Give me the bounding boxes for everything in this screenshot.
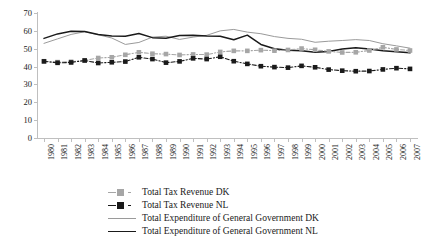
legend-item[interactable]: Total Tax Revenue DK: [108, 186, 408, 199]
x-tick-mark: [112, 139, 113, 142]
x-tick-mark: [342, 139, 343, 142]
data-point-marker: [272, 48, 277, 53]
data-point-marker: [313, 47, 318, 52]
x-tick-label: 1982: [75, 144, 83, 160]
data-point-marker: [299, 46, 304, 51]
x-tick-mark: [58, 139, 59, 142]
x-tick-label: 1981: [61, 144, 69, 160]
x-tick-mark: [152, 139, 153, 142]
x-tick-label: 1991: [197, 144, 205, 160]
x-tick-label: 1985: [115, 144, 123, 160]
x-tick-mark: [180, 139, 181, 142]
data-point-marker: [96, 56, 101, 61]
data-point-marker: [394, 47, 399, 52]
x-tick-mark: [125, 139, 126, 142]
data-point-marker: [177, 53, 182, 58]
data-point-marker: [259, 48, 264, 53]
legend-item-label: Total Expenditure of General Government …: [142, 226, 318, 237]
x-tick-label: 1987: [142, 144, 150, 160]
data-point-marker: [69, 60, 74, 65]
series-3: [44, 31, 410, 53]
x-tick-label: 2007: [414, 144, 422, 160]
data-point-marker: [55, 61, 60, 66]
data-point-marker: [408, 67, 413, 72]
x-tick-mark: [247, 139, 248, 142]
data-point-marker: [313, 65, 318, 70]
legend-item[interactable]: Total Expenditure of General Government …: [108, 212, 408, 225]
y-tick-label: 60: [24, 26, 33, 35]
y-tick-mark: [34, 138, 37, 139]
x-tick-mark: [396, 139, 397, 142]
x-tick-label: 1980: [48, 144, 56, 160]
chart-lines: [38, 13, 418, 138]
data-point-marker: [367, 69, 372, 74]
data-point-marker: [286, 48, 291, 53]
data-point-marker: [204, 52, 209, 57]
chart-figure: 010203040506070 198019811982198319841985…: [0, 0, 425, 245]
x-tick-mark: [329, 139, 330, 142]
x-tick-label: 2002: [346, 144, 354, 160]
data-point-marker: [109, 60, 114, 65]
data-point-marker: [245, 62, 250, 67]
x-tick-mark: [44, 139, 45, 142]
x-tick-mark: [274, 139, 275, 142]
x-tick-mark: [261, 139, 262, 142]
data-point-marker: [381, 45, 386, 50]
x-tick-mark: [85, 139, 86, 142]
x-tick-label: 1983: [88, 144, 96, 160]
x-tick-mark: [207, 139, 208, 142]
data-point-marker: [150, 57, 155, 62]
x-tick-label: 1986: [129, 144, 137, 160]
y-tick-label: 0: [28, 134, 32, 143]
data-point-marker: [218, 54, 223, 59]
x-tick-label: 1997: [278, 144, 286, 160]
data-point-marker: [191, 52, 196, 57]
x-tick-mark: [220, 139, 221, 142]
x-tick-label: 1994: [237, 144, 245, 160]
data-point-marker: [123, 59, 128, 64]
data-point-marker: [164, 52, 169, 57]
data-point-marker: [150, 51, 155, 56]
x-tick-label: 2005: [386, 144, 394, 160]
legend-item[interactable]: Total Tax Revenue NL: [108, 199, 408, 212]
data-point-marker: [82, 58, 87, 63]
x-tick-label: 1996: [264, 144, 272, 160]
data-point-marker: [109, 55, 114, 60]
data-point-marker: [123, 52, 128, 57]
y-axis: 010203040506070: [0, 0, 36, 151]
legend-item-label: Total Expenditure of General Government …: [142, 213, 319, 224]
data-point-marker: [340, 68, 345, 73]
legend-swatch-icon: [108, 213, 136, 224]
data-point-marker: [177, 59, 182, 64]
data-point-marker: [326, 67, 331, 72]
data-point-marker: [408, 48, 413, 53]
x-tick-mark: [302, 139, 303, 142]
data-point-marker: [340, 50, 345, 55]
x-tick-label: 2006: [400, 144, 408, 160]
x-tick-label: 1998: [292, 144, 300, 160]
data-point-marker: [353, 69, 358, 74]
legend-item[interactable]: Total Expenditure of General Government …: [108, 225, 408, 238]
data-point-marker: [326, 49, 331, 54]
x-tick-mark: [193, 139, 194, 142]
x-tick-mark: [288, 139, 289, 142]
data-point-marker: [96, 61, 101, 66]
data-point-marker: [137, 55, 142, 60]
data-point-marker: [394, 66, 399, 71]
y-tick-label: 30: [24, 80, 33, 89]
y-tick-mark: [34, 13, 37, 14]
x-tick-label: 1984: [102, 144, 110, 160]
x-tick-mark: [234, 139, 235, 142]
x-tick-label: 1992: [210, 144, 218, 160]
data-point-marker: [164, 60, 169, 65]
data-point-marker: [272, 65, 277, 70]
y-tick-label: 20: [24, 98, 33, 107]
y-tick-mark: [34, 49, 37, 50]
x-tick-mark: [356, 139, 357, 142]
y-tick-mark: [34, 84, 37, 85]
x-tick-mark: [383, 139, 384, 142]
data-point-marker: [42, 59, 47, 64]
y-tick-mark: [34, 31, 37, 32]
data-point-marker: [231, 49, 236, 54]
data-point-marker: [286, 65, 291, 70]
